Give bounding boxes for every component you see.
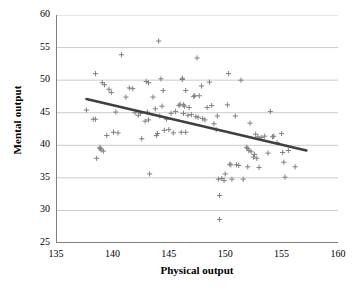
x-tick-label: 160 bbox=[318, 248, 358, 259]
y-tick-label: 50 bbox=[16, 73, 50, 84]
y-tick-label: 30 bbox=[16, 203, 50, 214]
x-axis-title: Physical output bbox=[56, 264, 338, 276]
axis-frame bbox=[56, 15, 338, 243]
x-tick-label: 140 bbox=[92, 248, 132, 259]
plot-svg bbox=[56, 15, 338, 243]
x-tick-label: 155 bbox=[262, 248, 302, 259]
x-tick-label: 145 bbox=[149, 248, 189, 259]
y-tick-label: 35 bbox=[16, 171, 50, 182]
x-tick-label: 150 bbox=[205, 248, 245, 259]
x-tick-label: 135 bbox=[36, 248, 76, 259]
y-tick-label: 25 bbox=[16, 236, 50, 247]
trendline bbox=[86, 99, 306, 150]
plot-area bbox=[56, 15, 338, 243]
y-tick-label: 40 bbox=[16, 138, 50, 149]
y-tick-label: 60 bbox=[16, 8, 50, 19]
scatter-chart-figure: Mental output Physical output 2530354045… bbox=[0, 0, 361, 288]
gridlines bbox=[56, 15, 338, 243]
y-tick-label: 55 bbox=[16, 41, 50, 52]
data-point-markers bbox=[84, 38, 298, 222]
y-tick-label: 45 bbox=[16, 106, 50, 117]
